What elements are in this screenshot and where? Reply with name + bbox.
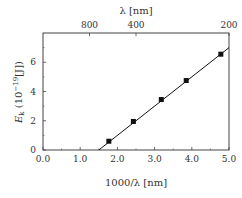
y-tick-label: 0 bbox=[30, 145, 36, 155]
x-tick-label: 4.0 bbox=[185, 154, 200, 164]
top-x-axis: 800400200 bbox=[81, 20, 238, 36]
x-axis-label: 1000/λ [nm] bbox=[105, 177, 167, 188]
y-tick-label: 2 bbox=[30, 116, 36, 126]
plot-frame bbox=[43, 33, 229, 150]
data-point bbox=[106, 139, 111, 144]
x-tick-label: 3.0 bbox=[147, 154, 162, 164]
x-tick-label: 5.0 bbox=[222, 154, 237, 164]
top-tick-label: 200 bbox=[220, 20, 237, 30]
chart: 0.01.02.03.04.05.0 0246 800400200 1000/λ… bbox=[0, 0, 242, 198]
data-point bbox=[131, 119, 136, 124]
x-tick-label: 0.0 bbox=[36, 154, 51, 164]
x-tick-label: 2.0 bbox=[110, 154, 125, 164]
y-axis-label: Ek (10−19[J]) bbox=[12, 61, 26, 124]
fit-line bbox=[99, 48, 229, 150]
x-tick-label: 1.0 bbox=[73, 154, 88, 164]
top-tick-label: 800 bbox=[81, 20, 98, 30]
plot-border bbox=[43, 33, 229, 150]
data-point bbox=[218, 52, 223, 57]
data-point bbox=[159, 97, 164, 102]
top-tick-label: 400 bbox=[127, 20, 144, 30]
left-y-axis: 0246 bbox=[30, 48, 46, 155]
data-point bbox=[184, 78, 189, 83]
top-axis-label: λ [nm] bbox=[119, 5, 152, 16]
y-tick-label: 6 bbox=[30, 57, 36, 67]
y-tick-label: 4 bbox=[30, 87, 36, 97]
data-series bbox=[99, 48, 229, 150]
